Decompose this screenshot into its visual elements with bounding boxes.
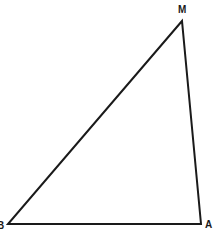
triangle-mba [8, 21, 201, 224]
vertex-label-b: B [0, 220, 4, 231]
triangle-diagram: M B A [0, 0, 219, 231]
vertex-label-a: A [205, 219, 212, 230]
vertex-label-m: M [178, 4, 186, 15]
